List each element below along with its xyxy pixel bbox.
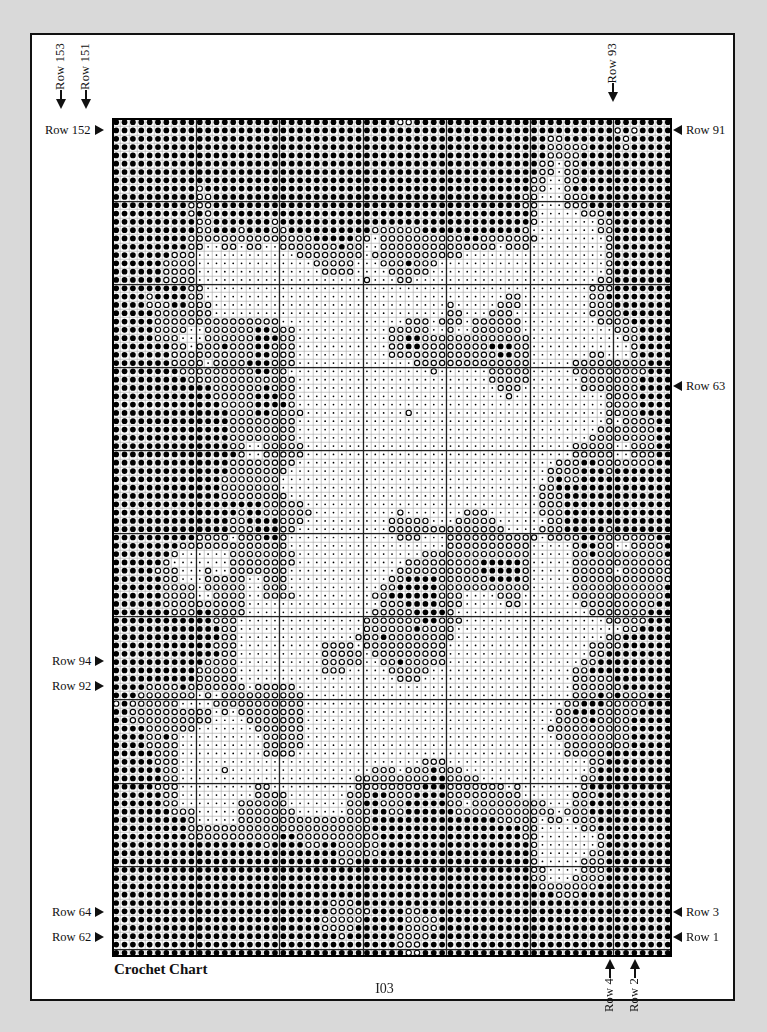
crochet-chart-grid (112, 118, 672, 957)
row-label-64: Row 64 (52, 906, 104, 919)
row-label-153-text: Row 153 (53, 43, 68, 90)
row-label-1-text: Row 1 (686, 931, 719, 944)
chart-caption: Crochet Chart (114, 961, 207, 978)
row-label-62-text: Row 62 (52, 931, 91, 944)
row-label-151-text: Row 151 (78, 43, 93, 90)
row-label-3-text: Row 3 (686, 906, 719, 919)
row-label-93: Row 93 (605, 43, 620, 102)
row-label-91: Row 91 (673, 124, 725, 137)
arrow-down-icon (608, 92, 618, 102)
row-label-93-text: Row 93 (605, 43, 620, 83)
row-label-62: Row 62 (52, 931, 104, 944)
row-label-92-text: Row 92 (52, 680, 91, 693)
row-label-63-text: Row 63 (686, 380, 725, 393)
label-tail (634, 969, 636, 978)
row-label-152-text: Row 152 (45, 124, 91, 137)
arrow-right-icon (95, 907, 104, 917)
arrow-down-icon (81, 99, 91, 109)
arrow-up-icon (605, 959, 615, 969)
arrow-right-icon (95, 932, 104, 942)
row-label-94-text: Row 94 (52, 655, 91, 668)
row-label-152: Row 152 (45, 124, 104, 137)
row-label-91-text: Row 91 (686, 124, 725, 137)
crochet-chart-canvas (112, 118, 672, 957)
row-label-153: Row 153 (53, 43, 68, 109)
label-tail (609, 969, 611, 978)
row-label-1: Row 1 (673, 931, 719, 944)
row-label-3: Row 3 (673, 906, 719, 919)
label-tail (85, 90, 87, 99)
arrow-up-icon (630, 959, 640, 969)
arrow-right-icon (95, 125, 104, 135)
arrow-left-icon (673, 381, 682, 391)
arrow-left-icon (673, 125, 682, 135)
row-label-92: Row 92 (52, 680, 104, 693)
arrow-right-icon (95, 656, 104, 666)
document-page: Row 153 Row 151 Row 93 Row 152 Row 94 Ro… (30, 33, 735, 1001)
page-number: I03 (32, 981, 737, 997)
label-tail (60, 90, 62, 99)
row-label-151: Row 151 (78, 43, 93, 109)
arrow-left-icon (673, 932, 682, 942)
row-label-64-text: Row 64 (52, 906, 91, 919)
row-label-94: Row 94 (52, 655, 104, 668)
arrow-left-icon (673, 907, 682, 917)
row-label-63: Row 63 (673, 380, 725, 393)
arrow-down-icon (56, 99, 66, 109)
arrow-right-icon (95, 681, 104, 691)
label-tail (612, 83, 614, 92)
